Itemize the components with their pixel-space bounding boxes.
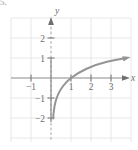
x-tick-label: 2: [89, 82, 94, 92]
y-axis: [48, 17, 54, 142]
x-tick-label: −1: [26, 82, 36, 92]
y-tick-label: 1: [40, 54, 45, 64]
curve-arrowhead: [122, 56, 130, 61]
y-tick-label: 2: [40, 34, 45, 44]
problem-number-label: 5.: [0, 0, 7, 7]
x-axis-arrowhead: [122, 75, 130, 81]
coordinate-plane-svg: −1 1 2 3 2 1 −1 −2 x y: [0, 0, 138, 150]
x-axis-label: x: [130, 73, 136, 83]
y-axis-label: y: [54, 6, 60, 16]
graph-figure: 5.: [0, 0, 138, 150]
x-tick-label: 1: [69, 82, 74, 92]
x-tick-label: 3: [109, 82, 114, 92]
y-tick-label: −2: [35, 114, 45, 124]
y-tick-label: −1: [35, 94, 45, 104]
x-tick-labels: −1 1 2 3: [26, 82, 114, 92]
